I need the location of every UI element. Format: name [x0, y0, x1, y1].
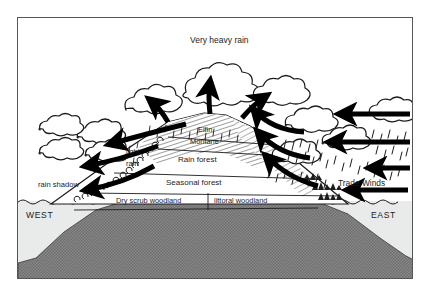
label-trade-winds: Trade Winds — [338, 179, 385, 188]
label-west: WEST — [26, 211, 53, 220]
label-light-rain-line2: rain — [126, 160, 139, 168]
zone-label-seasonal-forest: Seasonal forest — [166, 179, 222, 187]
diagram-figure: Very heavy rain Elfin Montane Rain fores… — [0, 0, 431, 297]
arrow-layer — [18, 18, 413, 279]
zone-label-dry-scrub-woodland: Dry scrub woodland — [116, 197, 181, 205]
zone-label-montane: Montane — [190, 138, 219, 146]
zone-label-elfin: Elfin — [198, 126, 212, 134]
zone-label-rain-forest: Rain forest — [178, 156, 217, 164]
diagram-frame: Very heavy rain Elfin Montane Rain fores… — [17, 17, 413, 279]
label-light-rain-line1: light — [126, 148, 140, 156]
label-rain-shadow: rain shadow — [38, 181, 79, 189]
label-very-heavy-rain: Very heavy rain — [190, 36, 249, 45]
label-east: EAST — [371, 211, 396, 220]
windward-ascent-arrows — [254, 110, 318, 186]
zone-label-littoral-woodland: littoral woodland — [214, 197, 267, 205]
summit-updraft-arrows — [150, 82, 266, 122]
